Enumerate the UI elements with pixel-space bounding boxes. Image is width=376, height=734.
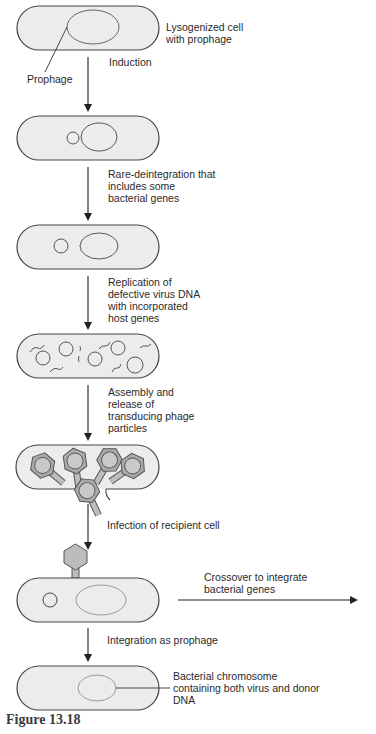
label-bacterial-chromosome: Bacterial chromosome containing both vir… [173,670,320,706]
cell-induced [17,116,159,160]
label-rare-deintegration: Rare-deintegration that includes some ba… [108,168,215,204]
cell-replication [17,334,159,378]
figure-caption: Figure 13.18 [6,712,80,728]
label-crossover: Crossover to integrate bacterial genes [204,571,307,595]
label-replication: Replication of defective virus DNA with … [108,276,200,324]
transduction-diagram [0,0,376,734]
cell-recipient [17,544,159,622]
infecting-phage [64,544,87,578]
cell-integrated [17,666,170,710]
label-assembly: Assembly and release of transducing phag… [108,386,194,434]
label-prophage: Prophage [27,73,73,85]
label-lysogenized-cell: Lysogenized cell with prophage [166,21,243,45]
label-induction: Induction [109,56,152,68]
cell-deintegrated [17,225,159,269]
label-integration: Integration as prophage [107,634,218,646]
label-infection: Infection of recipient cell [107,519,220,531]
